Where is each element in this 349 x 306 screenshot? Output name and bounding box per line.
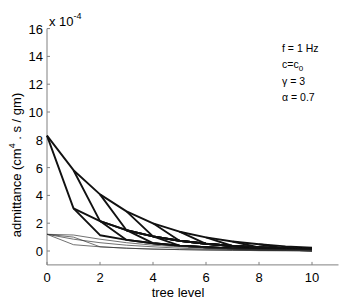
parameter-annotations: f = 1 Hz c=c0 γ = 3 α = 0.7 xyxy=(282,42,318,103)
x-tick-label: 2 xyxy=(96,270,103,285)
x-tick-label: 0 xyxy=(43,270,50,285)
y-tick-label: 2 xyxy=(36,216,43,231)
chart: 02468101214160246810 tree level admittan… xyxy=(0,0,349,306)
y-axis-label: admittance (cm4 . s / gm) xyxy=(7,93,24,237)
y-tick-label: 4 xyxy=(36,188,43,203)
y-tick-label: 10 xyxy=(29,105,43,120)
y-tick-label: 8 xyxy=(36,133,43,148)
x-tick-label: 8 xyxy=(255,270,262,285)
annotation-wave-speed: c=c0 xyxy=(282,58,304,73)
x-tick-label: 4 xyxy=(149,270,156,285)
y-tick-label: 0 xyxy=(36,244,43,259)
x-tick-label: 10 xyxy=(305,270,319,285)
x-axis-label: tree level xyxy=(152,285,205,300)
x-tick-label: 6 xyxy=(202,270,209,285)
data-series xyxy=(47,136,312,251)
y-tick-label: 16 xyxy=(29,22,43,37)
annotation-alpha: α = 0.7 xyxy=(282,91,315,103)
annotation-frequency: f = 1 Hz xyxy=(282,42,318,54)
series-line-thick xyxy=(47,136,312,248)
annotation-gamma: γ = 3 xyxy=(282,75,305,87)
y-tick-label: 12 xyxy=(29,77,43,92)
y-tick-label: 6 xyxy=(36,161,43,176)
y-exponent-label: x 10-4 xyxy=(49,11,82,29)
y-tick-label: 14 xyxy=(29,49,43,64)
